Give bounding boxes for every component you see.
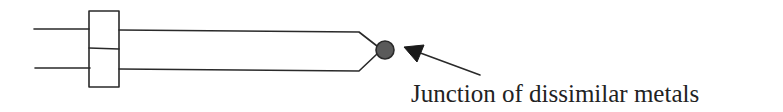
wire-top-right	[119, 30, 377, 46]
junction-label: Junction of dissimilar metals	[411, 80, 699, 108]
terminal-divider	[89, 48, 119, 49]
arrow-head-icon	[404, 45, 424, 62]
wire-bottom-right	[119, 54, 377, 71]
junction-bead	[376, 41, 394, 59]
arrow-shaft	[415, 51, 480, 75]
